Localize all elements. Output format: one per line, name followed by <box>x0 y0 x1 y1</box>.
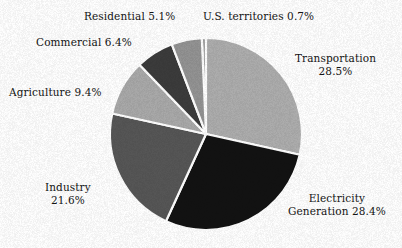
slice-label-transportation-line2: 28.5% <box>295 65 376 78</box>
slice-label-industry-line1: Industry <box>45 181 91 194</box>
slice-label-electricity-generation-line1: Electricity <box>288 192 386 205</box>
slice-label-commercial: Commercial 6.4% <box>36 36 132 49</box>
pie-slice-group <box>110 38 302 230</box>
slice-label-electricity-generation: Electricity Generation 28.4% <box>288 192 386 218</box>
slice-label-electricity-generation-line2: Generation 28.4% <box>288 205 386 218</box>
slice-label-industry-line2: 21.6% <box>45 194 91 207</box>
pie-chart: Residential 5.1% U.S. territories 0.7% C… <box>0 0 402 248</box>
slice-label-industry: Industry 21.6% <box>45 181 91 207</box>
slice-label-transportation: Transportation 28.5% <box>295 52 376 78</box>
slice-label-us-territories: U.S. territories 0.7% <box>203 10 314 23</box>
slice-label-residential: Residential 5.1% <box>84 10 175 23</box>
slice-label-agriculture: Agriculture 9.4% <box>9 86 102 99</box>
slice-label-transportation-line1: Transportation <box>295 52 376 65</box>
